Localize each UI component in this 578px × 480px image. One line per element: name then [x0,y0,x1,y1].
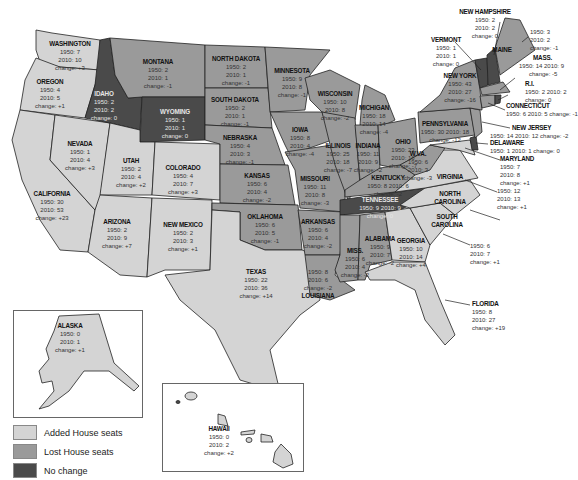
label-tennessee: TENNESSEE1950: 9 2010: 9change: 0 [359,196,401,220]
label-michigan: MICHIGAN1950: 182010: 14change: -4 [359,104,389,136]
label-washington: WASHINGTON1950: 72010: 10change: +3 [49,40,90,72]
label-arkansas: ARKANSAS1950: 62010: 4change: -2 [301,218,335,250]
label-alabama: ALABAMA1950: 92010: 7change: -2 [365,235,395,267]
label-connecticut: CONNECTICUT1950: 6 2010: 5 change: -1 [506,102,578,118]
label-florida: FLORIDA1950: 82010: 27change: +19 [472,300,505,332]
label-nebraska: NEBRASKA1950: 42010: 3change: -1 [223,134,257,166]
label-missouri: MISSOURI1950: 112010: 8change: -3 [300,175,330,207]
label-hawaii: HAWAII1950: 02010: 2change: +2 [204,425,234,457]
label-alaska: ALASKA1950: 02010: 1change: +1 [55,322,85,354]
label-north-dakota: NORTH DAKOTA1950: 22010: 1change: -1 [212,55,260,87]
label-montana: MONTANA1950: 22010: 1change: -1 [143,58,173,90]
legend-item-lost: Lost House seats [13,442,123,461]
label-virginia: VIRGINIA [437,173,463,181]
label-louisiana: 1950: 82010: 6change: -2LOUISIANA [302,268,335,300]
label-pennsylvania: PENNSYLVANIA1950: 30 2010: 18change: -12 [421,120,469,144]
label-north-carolina: NORTH CAROLINA [430,190,470,206]
label-wisconsin: WISCONSIN1950: 102010: 8change: -2 [318,90,353,122]
label-california: CALIFORNIA1950: 302010: 53change: +23 [34,190,71,222]
label-west-virginia: W.VA.1950: 62010: 3change: -3 [404,150,432,182]
label-colorado: COLORADO1950: 42010: 7change: +3 [165,164,200,196]
label-new-jersey: NEW JERSEY1950: 14 2010: 12 change: -2 [490,124,568,140]
label-oklahoma: OKLAHOMA1950: 62010: 5change: -1 [247,213,282,245]
legend-label-lost: Lost House seats [44,447,114,457]
label-texas: TEXAS1950: 222010: 36change: +14 [239,268,272,300]
label-idaho: IDAHO1950: 22010: 2change: 0 [91,90,117,122]
legend-swatch-added [13,425,37,440]
label-kansas: KANSAS1950: 62010: 4change: -2 [243,172,271,204]
legend-label-added: Added House seats [44,428,123,438]
label-new-york: NEW YORK1950: 432010: 27change: -16 [444,72,477,104]
label-delaware: DELAWARE1950: 1 2010: 1 change: 0 [490,139,560,155]
label-minnesota: MINNESOTA1950: 92010: 8change: -1 [274,67,310,99]
label-maryland: MARYLAND1950: 72010: 8change: +1 [500,155,534,187]
label-kentucky: KENTUCKY1950: 8 2010: 6change: -2 [367,174,409,198]
state-rhode-island[interactable] [495,95,501,104]
label-arizona: ARIZONA1950: 22010: 9change: +7 [102,218,132,250]
label-north-carolina-values: 1950: 122010: 13change: +1 [497,187,527,211]
legend-swatch-nochange [13,463,37,478]
legend: Added House seats Lost House seats No ch… [13,423,123,480]
label-south-carolina: SOUTH CAROLINA [429,213,465,229]
label-nevada: NEVADA1950: 12010: 4change: +3 [65,140,95,172]
label-new-mexico: NEW MEXICO1950: 22010: 3change: +1 [163,221,202,253]
legend-label-nochange: No change [44,466,88,476]
label-rhode-island: R.I.1950: 2 2010: 2change: 0 [525,80,567,104]
label-oregon: OREGON1950: 42010: 5change: +1 [35,78,65,110]
label-vermont: VERMONT1950: 12010: 1change: 0 [431,36,461,68]
label-south-carolina-values: 1950: 62010: 7change: +1 [470,242,500,266]
state-connecticut[interactable] [480,95,495,108]
label-iowa: IOWA1950: 82010: 4change: -4 [286,126,314,158]
legend-item-added: Added House seats [13,423,123,442]
legend-swatch-lost [13,444,37,459]
label-maine-values: 1950: 32010: 2change: -1 [530,28,558,52]
label-utah: UTAH1950: 22010: 4change: +2 [116,157,146,189]
label-maine: MAINE [492,46,511,54]
label-massachusetts: MASS.1950: 14 2010: 9change: -5 [519,54,564,78]
label-new-hampshire: NEW HAMPSHIRE1950: 22010: 2change: 0 [459,8,511,40]
label-wyoming: WYOMING1950: 12010: 1change: 0 [160,108,190,140]
legend-item-nochange: No change [13,461,123,480]
label-illinois: ILLINOIS1950: 252010: 18change: -7 [324,142,352,174]
state-florida[interactable] [365,262,455,345]
label-indiana: INDIANA1950: 112010: 9change: -2 [354,142,382,174]
label-south-dakota: SOUTH DAKOTA1950: 22010: 1change: -1 [211,96,259,128]
label-georgia: GEORGIA1950: 102010: 14change: +4 [396,237,426,269]
